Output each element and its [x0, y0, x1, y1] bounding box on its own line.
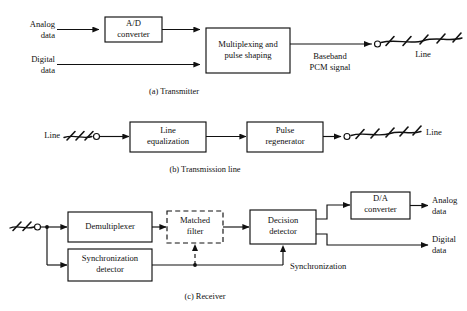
label-digital-data-line2: data	[41, 65, 55, 75]
diagram-canvas: Analog data Digital data A/D converter M…	[0, 0, 467, 311]
terminal-circle-c-input	[35, 224, 41, 230]
transmission-line-symbol-b-left	[64, 132, 93, 141]
label-matched-filter-line1: Matched	[180, 215, 211, 225]
pcm-system-diagram: Analog data Digital data A/D converter M…	[0, 0, 467, 311]
label-ad-converter-line1: A/D	[126, 18, 141, 28]
label-baseband-line1: Baseband	[313, 51, 347, 61]
arrowhead-sync-to-decision-detector	[280, 245, 286, 252]
label-demultiplexer: Demultiplexer	[85, 221, 135, 231]
arrowhead-to-da-converter	[343, 202, 351, 208]
label-analog-data-out-line2: data	[432, 206, 446, 216]
arrowhead-sync-to-matched-filter	[192, 244, 198, 251]
label-digital-data-line1: Digital	[31, 54, 55, 64]
transmission-line-symbol-b-right	[351, 126, 421, 139]
arrowhead-to-digital-data	[421, 242, 429, 248]
label-sync-detector-line1: Synchronization	[82, 253, 139, 263]
terminal-circle-a	[375, 41, 381, 47]
label-line-equalization-line2: equalization	[147, 136, 190, 146]
label-baseband-line2: PCM signal	[310, 62, 351, 72]
label-analog-data-line1: Analog	[30, 19, 56, 29]
label-multiplexing-line2: pulse shaping	[224, 50, 272, 60]
label-sync-detector-line2: detector	[96, 264, 124, 274]
caption-transmitter: (a) Transmitter	[149, 87, 199, 96]
label-pulse-regenerator-line2: regenerator	[265, 136, 304, 146]
label-ad-converter-line2: converter	[117, 29, 150, 39]
section-receiver: Demultiplexer Matched filter Decision de…	[10, 192, 458, 301]
label-da-converter-line1: D/A	[373, 193, 389, 203]
caption-receiver: (c) Receiver	[184, 292, 225, 301]
section-transmission-line: Line Line equalization Pulse regenerator	[44, 122, 442, 174]
label-decision-detector-line2: detector	[269, 226, 297, 236]
label-line-in-b: Line	[44, 130, 60, 140]
terminal-circle-b-right	[344, 134, 350, 140]
label-pulse-regenerator-line1: Pulse	[276, 125, 295, 135]
section-transmitter: Analog data Digital data A/D converter M…	[30, 17, 462, 96]
label-line-equalization-line1: Line	[160, 125, 176, 135]
label-da-converter-line2: converter	[364, 204, 397, 214]
label-multiplexing-line1: Multiplexing and	[218, 39, 278, 49]
label-synchronization-bus: Synchronization	[290, 261, 347, 271]
label-digital-data-out-line2: data	[432, 245, 446, 255]
transmission-line-symbol-a	[381, 33, 462, 46]
terminal-circle-b-left	[94, 134, 100, 140]
label-line-a: Line	[415, 49, 431, 59]
arrowhead-mux-out	[364, 41, 372, 47]
caption-transmission-line: (b) Transmission line	[169, 165, 240, 174]
wire-decision-to-digital-data	[316, 234, 428, 245]
label-line-out-b: Line	[426, 127, 442, 137]
arrowhead-regenerator-out	[334, 134, 342, 140]
label-matched-filter-line2: filter	[187, 226, 204, 236]
transmission-line-symbol-c-input	[10, 222, 34, 231]
label-analog-data-line2: data	[41, 30, 55, 40]
label-digital-data-out-line1: Digital	[432, 234, 456, 244]
label-analog-data-out-line1: Analog	[432, 195, 458, 205]
label-decision-detector-line1: Decision	[268, 215, 299, 225]
